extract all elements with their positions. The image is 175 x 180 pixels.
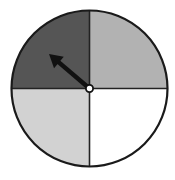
spinner [0,0,175,180]
pivot-icon [86,85,93,92]
